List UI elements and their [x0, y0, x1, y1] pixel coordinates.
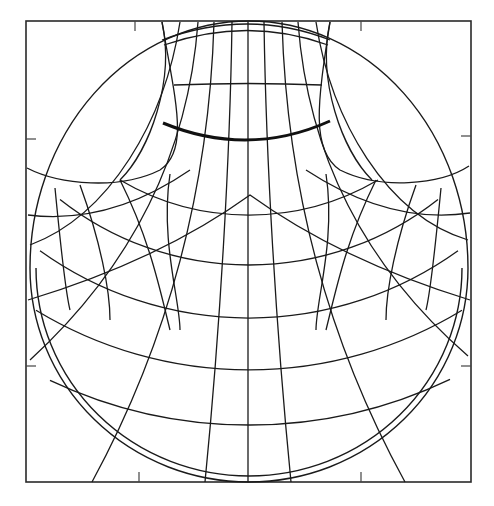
meridian — [167, 174, 180, 330]
meridian — [30, 22, 180, 245]
cap-edge — [319, 22, 469, 183]
meridian — [316, 174, 329, 330]
meridian — [316, 22, 468, 240]
parallel-arc — [36, 310, 462, 370]
meridian — [80, 185, 110, 320]
parallel-arc — [60, 199, 438, 265]
parallel-arc — [50, 379, 450, 425]
outline-circle — [30, 21, 468, 268]
parallel — [28, 195, 470, 300]
meridian — [282, 22, 405, 482]
parallels — [28, 24, 470, 300]
meridian — [264, 22, 291, 482]
projection-outline — [30, 21, 468, 482]
cap-edge — [27, 22, 177, 183]
meridian — [205, 22, 232, 482]
outline-circle — [36, 268, 462, 476]
meridian — [55, 188, 70, 310]
bold-parallel — [163, 121, 330, 140]
parallel — [164, 31, 328, 46]
concentric-parallels — [36, 180, 462, 425]
map-graticule — [0, 0, 494, 506]
outline-circle — [30, 268, 468, 482]
parallel — [28, 170, 470, 217]
